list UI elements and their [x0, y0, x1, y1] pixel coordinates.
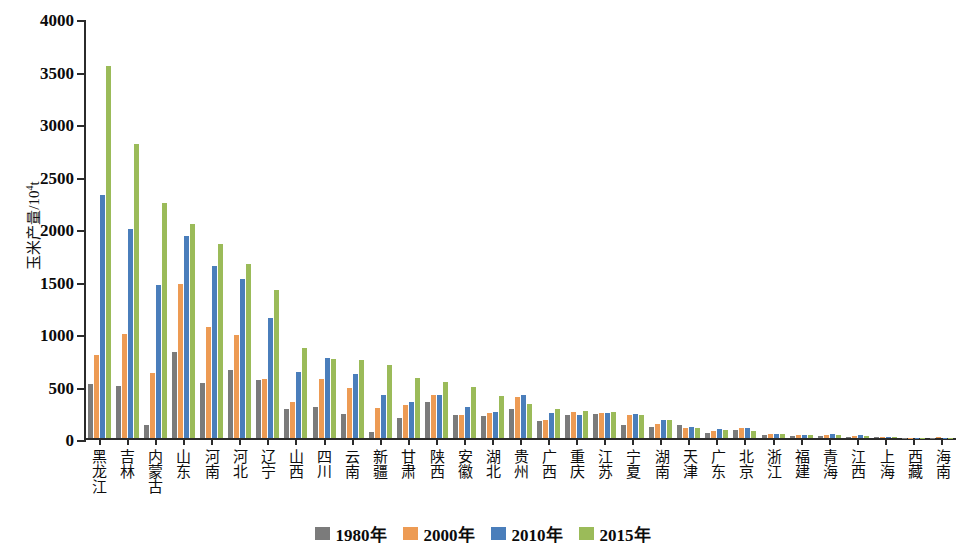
legend-label: 2015年 [600, 521, 651, 546]
legend-item[interactable]: 2010年 [491, 521, 563, 546]
x-axis-tick-label-text: 天津 [681, 449, 696, 479]
x-axis-tick-label: 宁夏 [618, 449, 646, 511]
y-axis-tick-label: 2500 [0, 170, 74, 187]
bar-group [339, 20, 367, 438]
bar [493, 412, 498, 438]
x-axis-tick-label-text: 贵州 [512, 449, 527, 479]
x-axis-tick-label-text: 新疆 [372, 449, 387, 479]
bar [537, 421, 542, 438]
bar-group [591, 20, 619, 438]
x-axis-tick-label: 广东 [703, 449, 731, 511]
y-axis-tick-label: 3000 [0, 117, 74, 134]
y-axis-tick [77, 178, 86, 180]
x-axis-tick-label-text: 青海 [822, 449, 837, 479]
bar [639, 415, 644, 438]
x-axis-tick-label-text: 重庆 [569, 449, 584, 479]
legend-item[interactable]: 2000年 [403, 521, 475, 546]
y-axis-tick [77, 388, 86, 390]
x-axis-tick [801, 438, 803, 445]
bar-group [872, 20, 900, 438]
bar-group [226, 20, 254, 438]
x-axis-tick-label: 青海 [815, 449, 843, 511]
x-axis-tick-label-text: 河南 [203, 449, 218, 479]
x-axis-tick-label: 陕西 [422, 449, 450, 511]
bar [156, 285, 161, 438]
x-axis-tick-label-text: 山东 [175, 449, 190, 479]
bar-group [479, 20, 507, 438]
bar [116, 386, 121, 438]
bar [134, 144, 139, 438]
bar [162, 203, 167, 438]
x-axis-tick [829, 438, 831, 445]
bar [571, 412, 576, 438]
legend-item[interactable]: 2015年 [579, 521, 651, 546]
x-axis-tick [155, 438, 157, 445]
x-axis-tick-label: 黑龙江 [84, 449, 112, 511]
plot-area [84, 20, 956, 440]
bar [864, 436, 869, 438]
x-axis-tick-label-text: 安徽 [456, 449, 471, 479]
bar-group [535, 20, 563, 438]
x-axis-tick-label: 湖北 [478, 449, 506, 511]
bar [577, 415, 582, 438]
bar [627, 415, 632, 438]
bar [808, 435, 813, 438]
y-axis-tick [77, 230, 86, 232]
bar [790, 436, 795, 438]
x-axis-tick-label-text: 陕西 [428, 449, 443, 479]
x-axis-tick-label-text: 西藏 [906, 449, 921, 479]
bar-group [647, 20, 675, 438]
bar-group [142, 20, 170, 438]
y-axis-tick [77, 283, 86, 285]
x-axis-tick [436, 438, 438, 445]
x-axis-tick-label: 内蒙古 [140, 449, 168, 511]
legend-item[interactable]: 1980年 [315, 521, 387, 546]
x-axis-tick [239, 438, 241, 445]
bar [347, 388, 352, 438]
bar-group [198, 20, 226, 438]
bar [649, 427, 654, 438]
x-axis-tick [352, 438, 354, 445]
bar [836, 435, 841, 438]
bar-group [367, 20, 395, 438]
bar [331, 359, 336, 438]
x-axis-tick-label-text: 广东 [709, 449, 724, 479]
x-axis-tick [660, 438, 662, 445]
y-axis-tick [77, 335, 86, 337]
bar [515, 397, 520, 438]
bar [387, 365, 392, 439]
x-axis-tick-label: 湖南 [647, 449, 675, 511]
bar [325, 358, 330, 438]
x-axis-tick [716, 438, 718, 445]
bar-group [507, 20, 535, 438]
bar [762, 435, 767, 438]
legend-swatch [403, 527, 418, 540]
bar-group [423, 20, 451, 438]
x-axis-tick-label-text: 海南 [934, 449, 949, 479]
y-axis-tick-label: 1000 [0, 327, 74, 344]
x-axis-tick-label: 四川 [309, 449, 337, 511]
legend-label: 2000年 [424, 521, 475, 546]
x-axis-tick [941, 438, 943, 445]
bar [453, 415, 458, 438]
x-axis-tick-label-text: 河北 [231, 449, 246, 479]
x-axis-tick-label: 江苏 [590, 449, 618, 511]
chart-root: 玉米产量/104t 050010001500200025003000350040… [0, 0, 965, 551]
x-axis-tick-label-text: 四川 [316, 449, 331, 479]
x-axis-tick [913, 438, 915, 445]
y-axis-tick-label: 0 [0, 432, 74, 449]
bar [733, 430, 738, 438]
x-axis-tick-label-text: 湖北 [484, 449, 499, 479]
x-axis-tick-label-text: 甘肃 [400, 449, 415, 479]
bar [599, 413, 604, 438]
bar [565, 415, 570, 438]
bar-group [395, 20, 423, 438]
bar [144, 425, 149, 438]
x-axis-tick [576, 438, 578, 445]
bar [605, 413, 610, 438]
x-axis-tick-label-text: 黑龙江 [91, 449, 106, 494]
bar [274, 290, 279, 438]
x-axis-tick-label-text: 吉林 [119, 449, 134, 479]
bar [397, 418, 402, 438]
bar [246, 264, 251, 438]
